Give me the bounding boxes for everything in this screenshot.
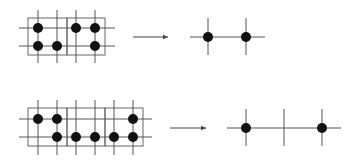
node-dot <box>52 132 62 142</box>
fine-grid <box>19 100 152 155</box>
node-dot <box>52 114 62 124</box>
coarse-grid <box>190 18 265 55</box>
node-dot <box>90 132 100 142</box>
node-dot <box>52 41 62 51</box>
node-dot <box>203 32 213 42</box>
node-dot <box>241 32 251 42</box>
coarse-grid <box>227 109 341 146</box>
coarse-cell-box <box>67 18 105 55</box>
node-dot <box>33 41 43 51</box>
coarse-cell-box <box>28 108 67 146</box>
node-dot <box>33 114 43 124</box>
node-dot <box>317 123 327 133</box>
grid-coarsening-diagram <box>0 0 361 162</box>
node-dot <box>128 114 138 124</box>
node-dot <box>71 132 81 142</box>
node-dot <box>90 41 100 51</box>
node-dot <box>71 23 81 33</box>
node-dot <box>90 23 100 33</box>
node-dot <box>33 23 43 33</box>
node-dot <box>128 132 138 142</box>
node-dot <box>241 123 251 133</box>
node-dot <box>109 132 119 142</box>
coarse-cell-box <box>28 18 67 55</box>
diagram-row-1 <box>19 10 265 63</box>
fine-grid <box>19 10 115 63</box>
diagram-row-2 <box>19 100 341 155</box>
